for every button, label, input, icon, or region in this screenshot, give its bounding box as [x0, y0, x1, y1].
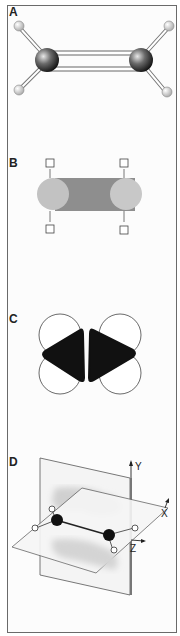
hydrogen-atom: [14, 85, 24, 95]
hydrogen-atom: [49, 506, 55, 512]
panel-a: A: [0, 0, 180, 140]
hydrogen-atom: [32, 525, 38, 531]
carbon-atom-right: [103, 529, 115, 541]
sigma-lobe-left: [37, 178, 69, 210]
carbon-atom-left: [35, 48, 59, 72]
hydrogen-atom: [111, 547, 117, 553]
ethylene-ball-stick: [0, 0, 180, 140]
hydrogen-atom: [162, 87, 172, 97]
panel-d: D Y X Z: [0, 440, 180, 636]
carbon-atom-left: [51, 514, 63, 526]
axis-label-x: X: [161, 508, 168, 519]
p-orbital-diagram: [0, 290, 180, 440]
panel-b: B: [0, 140, 180, 290]
panel-c: C: [0, 290, 180, 440]
axis-label-z: Z: [130, 543, 136, 554]
sigma-lobe-right: [110, 178, 142, 210]
sigma-bond-diagram: [0, 140, 180, 290]
pi-bond-diagram: Y X Z: [0, 440, 180, 636]
axis-label-y: Y: [135, 461, 142, 472]
hydrogen-atom: [132, 525, 138, 531]
hydrogen-atom: [14, 21, 24, 31]
hydrogen-atom: [164, 21, 174, 31]
carbon-atom-right: [129, 48, 153, 72]
hydrogen-square: [120, 159, 128, 167]
hydrogen-square: [120, 226, 128, 234]
double-bond: [48, 51, 138, 71]
hydrogen-square: [46, 159, 54, 167]
hydrogen-square: [46, 225, 54, 233]
